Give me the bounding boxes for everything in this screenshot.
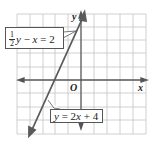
eq1-equals: = 2 — [38, 34, 55, 45]
eq2-tail: + 4 — [81, 110, 98, 122]
equation-label-1: 1 2 y − x = 2 — [5, 27, 64, 49]
eq1-minus: − — [21, 34, 33, 45]
arrow-left-icon — [18, 78, 24, 82]
equation-label-2: y = 2x + 4 — [50, 109, 103, 123]
origin-label: O — [70, 82, 77, 93]
y-axis-label: y — [72, 11, 76, 22]
eq2-equals: = 2 — [59, 110, 76, 122]
fraction-one-half: 1 2 — [9, 31, 15, 48]
x-axis-label: x — [138, 82, 143, 93]
x-axis — [18, 78, 147, 82]
fraction-denominator: 2 — [10, 40, 14, 48]
line-arrow-down-icon — [29, 127, 35, 136]
arrow-down-icon — [79, 123, 83, 129]
